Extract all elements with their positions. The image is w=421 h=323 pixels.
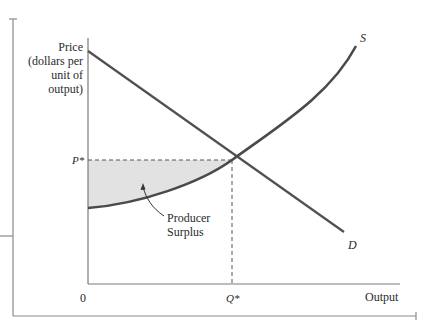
x-axis-label: Output — [365, 290, 398, 304]
y-axis-label: Price (dollars per unit of output) — [3, 40, 83, 96]
origin-label: 0 — [80, 291, 86, 305]
supply-label: S — [360, 31, 366, 45]
y-axis-label-line: output) — [3, 82, 83, 96]
price-equilibrium-label: P* — [72, 153, 84, 167]
y-axis-label-line: (dollars per — [3, 54, 83, 68]
y-axis-label-line: unit of — [3, 68, 83, 82]
producer-surplus-label-line: Surplus — [167, 225, 210, 239]
demand-label: D — [348, 238, 357, 252]
producer-surplus-area — [88, 160, 232, 208]
quantity-equilibrium-label: Q* — [226, 291, 239, 305]
producer-surplus-label-line: Producer — [167, 211, 210, 225]
producer-surplus-label: Producer Surplus — [167, 211, 210, 239]
demand-curve — [88, 51, 344, 232]
y-axis-label-line: Price — [3, 40, 83, 54]
